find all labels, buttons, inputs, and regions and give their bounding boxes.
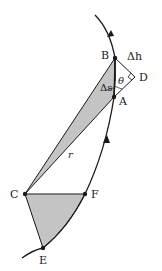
label-b: B <box>101 49 109 62</box>
label-delta-s: Δs <box>100 82 112 93</box>
label-delta-h: Δh <box>127 50 142 63</box>
label-a: A <box>118 95 128 108</box>
point-e <box>41 246 45 250</box>
label-e: E <box>39 254 47 267</box>
shaded-sector-cef <box>25 194 85 248</box>
shaded-sector-cab <box>25 58 115 194</box>
point-a <box>112 95 116 99</box>
orbit-diagram: B Δh D θ Δs A r C F E <box>0 0 162 271</box>
point-c <box>23 192 27 196</box>
direction-arrow-lower-icon <box>103 135 110 143</box>
label-r: r <box>68 149 74 160</box>
label-theta: θ <box>118 75 124 86</box>
label-d: D <box>139 71 148 84</box>
label-f: F <box>91 188 99 201</box>
point-f <box>83 192 87 196</box>
label-c: C <box>10 188 18 201</box>
point-b <box>113 56 117 60</box>
